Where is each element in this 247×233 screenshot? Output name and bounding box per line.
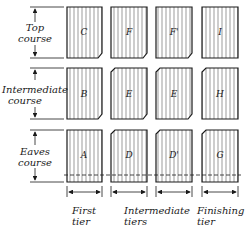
- tile-letter: E: [170, 89, 178, 99]
- shingle-layout-diagram: C F F' I B E E H A D D' G Top course: [0, 0, 247, 233]
- column-label-first: First tier: [72, 205, 96, 227]
- row-label-eaves: Eaves course: [16, 146, 54, 168]
- tile-row-eaves: [67, 130, 238, 182]
- tile-letter: G: [216, 150, 223, 160]
- tile-letter: H: [215, 89, 224, 99]
- tile-row-top: [67, 7, 238, 58]
- tile-letter: F: [125, 27, 133, 37]
- tile-letter: I: [217, 27, 222, 37]
- column-label-intermediate: Intermediate tiers: [124, 205, 190, 227]
- tile-letter: B: [80, 89, 88, 99]
- tile-letter: C: [81, 27, 88, 37]
- tile-letter: D': [168, 150, 179, 160]
- tile-row-intermediate: [67, 68, 238, 119]
- column-dimension-lines: [67, 186, 238, 197]
- tile-letter: A: [80, 150, 88, 160]
- column-label-finishing: Finishing tier: [197, 205, 244, 227]
- tile-letter: D: [124, 150, 132, 160]
- tile-letter: F': [169, 27, 179, 37]
- row-label-top: Top course: [18, 22, 52, 44]
- tile-letter: E: [125, 89, 133, 99]
- row-label-intermediate: Intermediate course: [2, 84, 66, 106]
